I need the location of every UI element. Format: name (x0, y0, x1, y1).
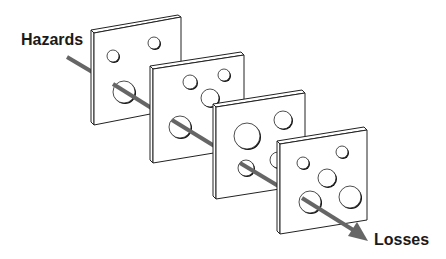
defense-layer-4 (277, 127, 367, 234)
hazards-label: Hazards (21, 31, 83, 49)
hole (234, 123, 261, 150)
losses-label: Losses (374, 231, 429, 249)
hazard-trajectory-segment (67, 57, 94, 73)
